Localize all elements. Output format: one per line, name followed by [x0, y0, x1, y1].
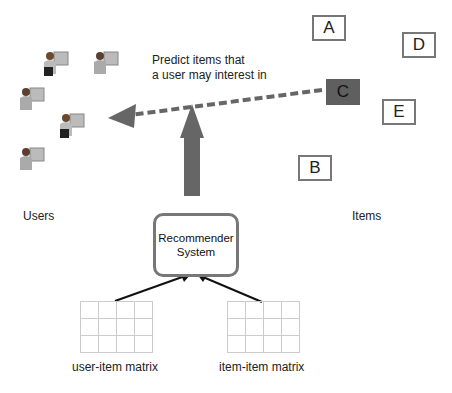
item-d: D — [402, 32, 436, 58]
user-icons — [20, 52, 118, 170]
prediction-annotation: Predict items that a user may interest i… — [152, 53, 267, 83]
items-label: Items — [352, 209, 381, 223]
prediction-arrow-line — [130, 90, 322, 115]
user-item-matrix-grid — [80, 301, 153, 353]
item-b: B — [298, 155, 332, 181]
users-label: Users — [23, 209, 54, 223]
annotation-line-1: Predict items that — [152, 53, 267, 68]
prediction-arrow-head — [108, 104, 136, 128]
item-item-matrix-label: item-item matrix — [219, 360, 304, 374]
item-c-selected: C — [326, 79, 360, 105]
item-e: E — [382, 99, 416, 125]
recommender-system-box: Recommender System — [153, 213, 239, 277]
item-item-matrix-grid — [227, 301, 300, 353]
recommender-line-2: System — [158, 245, 233, 259]
up-arrow-shaft — [184, 138, 200, 196]
annotation-line-2: a user may interest in — [152, 68, 267, 83]
user-item-matrix-label: user-item matrix — [72, 360, 158, 374]
item-a: A — [312, 15, 346, 41]
recommender-line-1: Recommender — [158, 231, 233, 245]
